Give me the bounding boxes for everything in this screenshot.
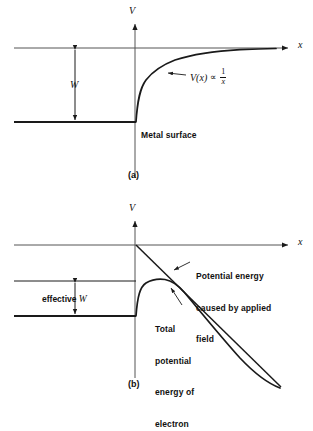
effective-w-prefix: effective (42, 294, 79, 304)
panel-a-graphics (14, 24, 288, 178)
total-energy-note-line-4: electron (155, 419, 194, 430)
image-force-proportionality-annotation: V(x) ∝ 1 x (190, 68, 226, 86)
fraction-numerator: 1 (220, 68, 226, 77)
applied-field-note: Potential energy caused by applied field (196, 250, 271, 366)
panel-a-curve-leader-line (168, 73, 186, 75)
total-energy-note-line-3: energy of (155, 387, 194, 398)
panel-b-applied-field-leader-line (174, 262, 190, 270)
panel-b-x-axis-label: x (298, 236, 302, 247)
total-energy-note-line-2: potential (155, 356, 194, 367)
panel-a-x-axis-label: x (298, 39, 302, 50)
applied-field-note-line-3: field (196, 334, 271, 345)
total-energy-note-line-1: Total (155, 324, 194, 335)
total-energy-note: Total potential energy of electron (155, 303, 194, 431)
panel-b-caption: (b) (128, 379, 140, 389)
fraction-denominator: x (220, 77, 226, 87)
panel-b-v-axis-label: V (129, 202, 135, 213)
proportional-to-icon: ∝ (210, 72, 216, 82)
applied-field-note-line-1: Potential energy (196, 271, 271, 282)
panel-b-effective-barrier-label: effective W (42, 294, 87, 304)
panel-a-barrier-label: W (70, 79, 78, 90)
applied-field-note-line-2: caused by applied (196, 303, 271, 314)
proportionality-function-label: V(x) (190, 72, 207, 83)
metal-surface-label: Metal surface (141, 130, 197, 141)
effective-w-symbol: W (79, 294, 87, 304)
panel-a-caption: (a) (128, 170, 139, 180)
panel-a-v-axis-label: V (129, 5, 135, 16)
one-over-x-fraction: 1 x (220, 68, 226, 86)
